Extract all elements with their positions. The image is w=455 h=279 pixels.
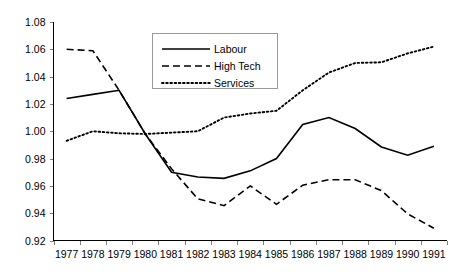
x-tick-label: 1987 bbox=[317, 248, 341, 260]
line-chart: 1.081.061.041.021.000.980.960.940.92 197… bbox=[0, 0, 455, 279]
x-tick-label: 1977 bbox=[55, 248, 79, 260]
legend-label-labour: Labour bbox=[214, 43, 247, 55]
x-tick-label: 1988 bbox=[344, 248, 368, 260]
x-tick-label: 1980 bbox=[134, 248, 158, 260]
series-line-labour bbox=[67, 90, 434, 178]
x-tick-label: 1991 bbox=[422, 248, 446, 260]
y-tick-label: 0.92 bbox=[25, 235, 46, 247]
y-tick-label: 1.00 bbox=[25, 125, 46, 137]
y-tick-label: 1.04 bbox=[25, 71, 46, 83]
legend-label-high-tech: High Tech bbox=[214, 60, 261, 72]
x-tick-label: 1989 bbox=[370, 248, 394, 260]
x-tick-label: 1983 bbox=[212, 248, 236, 260]
x-tick-label: 1981 bbox=[160, 248, 184, 260]
y-axis-group: 1.081.061.041.021.000.980.960.940.92 bbox=[25, 16, 53, 247]
legend-label-services: Services bbox=[214, 77, 254, 89]
y-tick-label: 1.06 bbox=[25, 43, 46, 55]
x-tick-label: 1979 bbox=[107, 248, 131, 260]
x-tick-label: 1985 bbox=[265, 248, 289, 260]
x-axis-ticks bbox=[54, 241, 448, 245]
x-tick-label: 1990 bbox=[396, 248, 420, 260]
y-tick-label: 0.94 bbox=[25, 207, 46, 219]
x-tick-label: 1986 bbox=[291, 248, 315, 260]
x-axis-group: 1977197819791980198119821983198419851986… bbox=[54, 241, 448, 260]
x-axis-labels: 1977197819791980198119821983198419851986… bbox=[55, 248, 446, 260]
x-tick-label: 1984 bbox=[239, 248, 263, 260]
y-tick-label: 1.08 bbox=[25, 16, 46, 28]
legend: LabourHigh TechServices bbox=[153, 34, 278, 90]
y-tick-label: 0.98 bbox=[25, 153, 46, 165]
y-tick-label: 0.96 bbox=[25, 180, 46, 192]
x-tick-label: 1982 bbox=[186, 248, 210, 260]
x-tick-label: 1978 bbox=[81, 248, 105, 260]
chart-canvas: 1.081.061.041.021.000.980.960.940.92 197… bbox=[0, 0, 455, 279]
y-axis-ticks: 1.081.061.041.021.000.980.960.940.92 bbox=[25, 16, 53, 247]
y-tick-label: 1.02 bbox=[25, 98, 46, 110]
